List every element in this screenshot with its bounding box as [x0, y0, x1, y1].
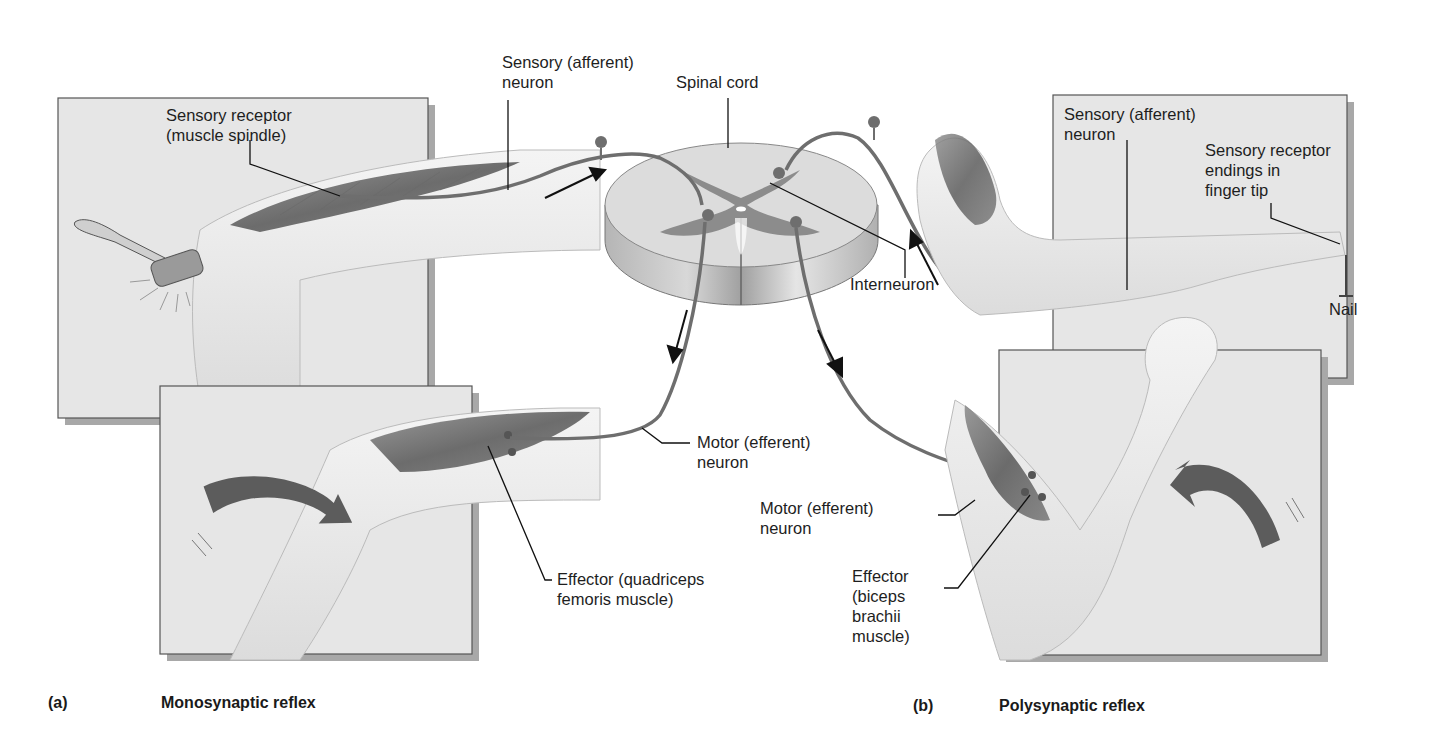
- reflex-arc-figure: Sensory (afferent) neuron Sensory recept…: [0, 0, 1432, 752]
- label-panel-b-motor-neuron: Motor (efferent) neuron: [760, 498, 873, 538]
- caption-panel-b-letter: (b): [913, 697, 933, 715]
- label-panel-a-sensory-receptor: Sensory receptor (muscle spindle): [166, 105, 292, 145]
- label-panel-a-sensory-neuron: Sensory (afferent) neuron: [502, 52, 634, 92]
- label-spinal-cord: Spinal cord: [676, 72, 759, 92]
- label-nail: Nail: [1329, 299, 1357, 319]
- label-panel-b-effector: Effector (biceps brachii muscle): [852, 566, 910, 646]
- label-panel-b-sensory-neuron: Sensory (afferent) neuron: [1064, 104, 1196, 144]
- label-panel-a-effector: Effector (quadriceps femoris muscle): [557, 569, 704, 609]
- caption-panel-a-title: Monosynaptic reflex: [161, 694, 316, 712]
- label-panel-b-sensory-receptor: Sensory receptor endings in finger tip: [1205, 140, 1331, 200]
- caption-panel-b-title: Polysynaptic reflex: [999, 697, 1145, 715]
- spinal-cord-cross-section: [605, 143, 878, 305]
- label-interneuron: Interneuron: [850, 274, 934, 294]
- label-panel-a-motor-neuron: Motor (efferent) neuron: [697, 432, 810, 472]
- caption-panel-a-letter: (a): [48, 694, 68, 712]
